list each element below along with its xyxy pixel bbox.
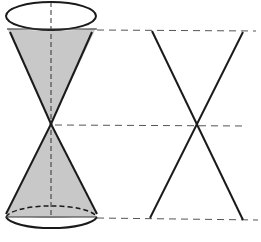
double-cone-diagram [0,0,261,242]
apex-point [50,123,53,126]
